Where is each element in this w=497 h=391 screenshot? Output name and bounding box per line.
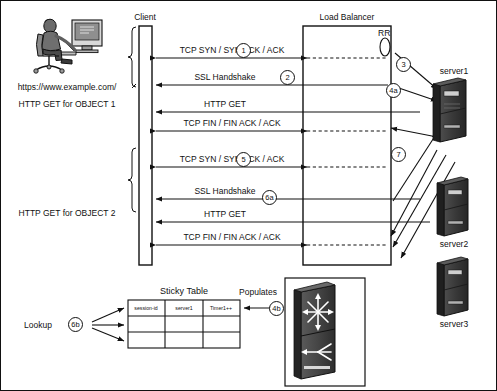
lookup-label: Lookup: [24, 320, 52, 330]
message-label-7: HTTP GET: [204, 209, 246, 219]
populates-label: Populates: [239, 287, 277, 297]
step-circle-5: 5: [236, 152, 251, 167]
sticky-table-title: Sticky Table: [160, 286, 208, 296]
message-label-8: TCP FIN / FIN ACK / ACK: [183, 232, 280, 242]
server1-label: server1: [440, 66, 468, 76]
message-label-2: SSL Handshake: [194, 72, 255, 82]
step-circle-2: 2: [280, 70, 295, 85]
load-balancer-header: Load Balancer: [320, 12, 375, 22]
object2-brace: [128, 148, 136, 212]
message-label-3: HTTP GET: [204, 99, 246, 109]
step-circle-4b: 4b: [269, 301, 284, 316]
server1-icon: [433, 78, 466, 142]
message-label-6: SSL Handshake: [194, 186, 255, 196]
server3-icon: [437, 257, 468, 316]
lookup-arrows: [92, 308, 124, 341]
step-circle-1: 1: [236, 43, 251, 58]
step-circle-4a: 4a: [386, 83, 401, 98]
sticky-table-col-timer1: Timer1++: [210, 305, 232, 311]
user-at-computer-icon: [34, 19, 102, 73]
server3-label: server3: [440, 319, 468, 329]
client-header: Client: [134, 12, 156, 22]
client-lifeline-bar: [139, 26, 152, 265]
message-label-1: TCP SYN / SYN ACK / ACK: [180, 45, 285, 55]
network-switch-icon: [294, 282, 335, 379]
object1-label: HTTP GET for OBJECT 1: [19, 99, 116, 109]
step-circle-6a: 6a: [262, 190, 277, 205]
message-label-5: TCP SYN / SYN ACK / ACK: [180, 154, 285, 164]
sticky-table-col-server1: server1: [175, 305, 192, 311]
server2-label: server2: [440, 239, 468, 249]
diagram-canvas: Client Load Balancer https://www.example…: [0, 0, 497, 391]
step-circle-3: 3: [396, 57, 411, 72]
message-label-4: TCP FIN / FIN ACK / ACK: [183, 118, 280, 128]
sticky-table-col-session-id: session-id: [134, 305, 157, 311]
load-balancer-bar: [303, 26, 391, 265]
step-circle-7: 7: [391, 147, 406, 162]
server2-icon: [437, 177, 468, 236]
object1-brace: [128, 27, 136, 87]
step-circle-6b: 6b: [68, 317, 83, 332]
object2-label: HTTP GET for OBJECT 2: [19, 208, 116, 218]
round-robin-label: RR: [378, 28, 390, 38]
url-label: https://www.example.com/: [18, 82, 117, 92]
